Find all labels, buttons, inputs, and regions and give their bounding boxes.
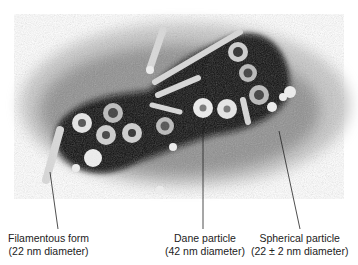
label-spherical-particle: Spherical particle (22 ± 2 nm diameter)	[251, 232, 348, 258]
label-dane-particle: Dane particle (42 nm diameter)	[165, 232, 245, 258]
label-spherical-name: Spherical particle	[251, 232, 348, 245]
label-dane-size: (42 nm diameter)	[165, 245, 245, 258]
label-dane-name: Dane particle	[165, 232, 245, 245]
label-spherical-size: (22 ± 2 nm diameter)	[251, 245, 348, 258]
micrograph	[0, 0, 358, 265]
label-filamentous-size: (22 nm diameter)	[8, 245, 89, 258]
label-filamentous-form: Filamentous form (22 nm diameter)	[8, 232, 89, 258]
label-filamentous-name: Filamentous form	[8, 232, 89, 245]
